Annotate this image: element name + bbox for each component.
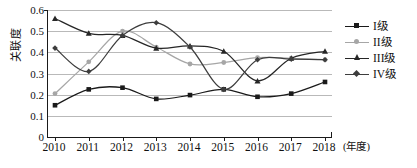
- legend-triangle-icon: [354, 54, 360, 60]
- legend-swatch: [345, 36, 369, 48]
- data-point-marker: [153, 20, 159, 26]
- data-point-marker: [53, 103, 58, 108]
- series-2: [53, 29, 328, 96]
- legend-square-icon: [354, 23, 359, 28]
- data-point-marker: [221, 48, 227, 54]
- y-tick-label: 0.4: [18, 47, 44, 57]
- plot-area: [47, 10, 332, 138]
- data-point-marker: [322, 57, 328, 63]
- series-lines: [48, 10, 332, 137]
- relevance-line-chart: 关联度 00.10.20.30.40.50.6 2010201120122013…: [0, 0, 417, 168]
- chart-legend: I级II级III级IV级: [345, 18, 417, 82]
- x-tick-label: 2018: [304, 140, 344, 154]
- legend-label: IV级: [373, 68, 396, 80]
- data-point-marker: [289, 91, 294, 96]
- y-tick-label: 0.2: [18, 90, 44, 100]
- legend-item-2[interactable]: II级: [345, 34, 417, 50]
- legend-dot-icon: [354, 39, 359, 44]
- data-point-marker: [221, 60, 226, 65]
- data-point-marker: [120, 85, 125, 90]
- y-tick-label: 0.6: [18, 5, 44, 15]
- data-point-marker: [86, 59, 91, 64]
- data-point-marker: [53, 91, 58, 96]
- data-point-marker: [86, 69, 92, 75]
- data-point-marker: [188, 93, 193, 98]
- series-line: [55, 22, 325, 89]
- legend-swatch: [345, 68, 369, 80]
- data-point-marker: [52, 15, 58, 21]
- y-tick-label: 0.3: [18, 69, 44, 79]
- legend-swatch: [345, 20, 369, 32]
- y-tick-label: 0.1: [18, 111, 44, 121]
- x-axis-tick-labels: 201020112012201320142015201620172018(年度): [0, 140, 417, 158]
- legend-item-3[interactable]: III级: [345, 50, 417, 66]
- data-point-marker: [323, 80, 328, 85]
- data-point-marker: [255, 94, 260, 99]
- series-1: [53, 80, 328, 108]
- data-point-marker: [154, 97, 159, 102]
- legend-label: II级: [373, 36, 392, 48]
- legend-label: I级: [373, 20, 388, 32]
- x-axis-unit-label: (年度): [343, 140, 370, 154]
- legend-item-4[interactable]: IV级: [345, 66, 417, 82]
- legend-item-1[interactable]: I级: [345, 18, 417, 34]
- data-point-marker: [188, 62, 193, 67]
- legend-swatch: [345, 52, 369, 64]
- series-4: [52, 20, 328, 92]
- legend-diamond-icon: [353, 70, 360, 77]
- data-point-marker: [86, 87, 91, 92]
- y-tick-label: 0.5: [18, 26, 44, 36]
- legend-label: III级: [373, 52, 396, 64]
